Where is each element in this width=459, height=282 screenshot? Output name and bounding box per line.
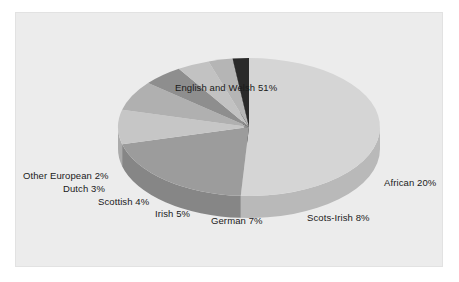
slice-label-scottish: Scottish 4% <box>98 196 149 207</box>
pie-top-surface <box>118 58 380 196</box>
slice-label-irish: Irish 5% <box>155 208 190 219</box>
slice-label-african: African 20% <box>384 177 436 188</box>
slice-label-other-european: Other European 2% <box>23 170 109 181</box>
slice-label-scots-irish: Scots-Irish 8% <box>307 212 370 223</box>
slice-label-german: German 7% <box>211 215 263 226</box>
pie-chart-figure: English and Welsh 51% African 20% Scots-… <box>0 0 459 282</box>
slice-label-dutch: Dutch 3% <box>63 183 105 194</box>
chart-panel <box>15 12 443 267</box>
slice-label-english-and-welsh: English and Welsh 51% <box>175 82 277 93</box>
pie-chart-canvas <box>16 13 443 267</box>
